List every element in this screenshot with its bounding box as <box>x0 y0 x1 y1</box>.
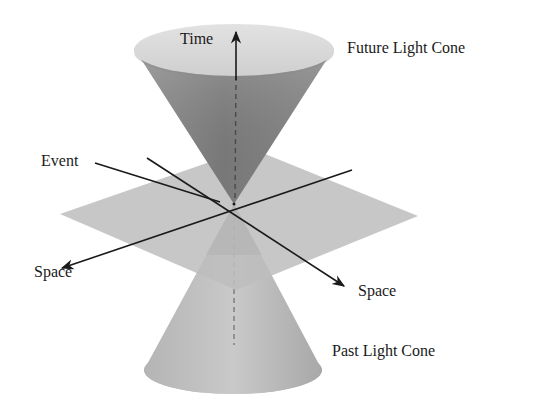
time-label: Time <box>180 31 213 47</box>
event-label: Event <box>41 153 78 169</box>
past-light-cone-label: Past Light Cone <box>332 343 435 359</box>
event-point <box>233 203 236 206</box>
space-right-label: Space <box>358 283 396 299</box>
space-left-label: Space <box>34 264 72 280</box>
future-light-cone-label: Future Light Cone <box>347 40 465 56</box>
light-cone-diagram: Time Future Light Cone Event Space Space… <box>0 0 537 404</box>
future-cone-rim <box>134 24 334 76</box>
diagram-canvas <box>0 0 537 404</box>
